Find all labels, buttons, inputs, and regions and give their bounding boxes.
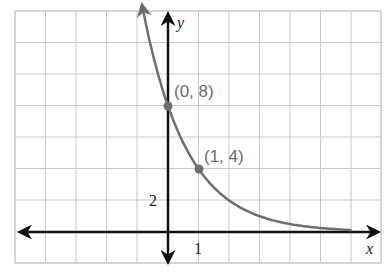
label-point-0-8: (0, 8) [174, 82, 214, 101]
exponential-graph: (0, 8) (1, 4) 2 1 x y [0, 0, 386, 279]
y-tick-label: 2 [149, 192, 157, 209]
y-axis-label: y [175, 14, 185, 32]
label-point-1-4: (1, 4) [204, 147, 244, 166]
x-tick-label: 1 [194, 240, 202, 257]
gridlines [15, 11, 381, 263]
point-0-8 [164, 102, 173, 111]
point-1-4 [195, 165, 204, 174]
x-axis-label: x [365, 240, 373, 257]
